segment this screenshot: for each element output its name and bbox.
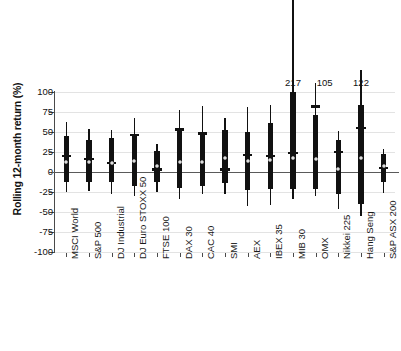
x-axis-tick bbox=[384, 253, 385, 257]
x-axis-label-12: OMX bbox=[320, 237, 330, 259]
mean-marker bbox=[356, 127, 365, 129]
x-axis-label-4: DJ Euro STOXX 50 bbox=[138, 177, 148, 259]
x-axis-label-2: S&P 500 bbox=[93, 222, 103, 259]
x-axis-tick bbox=[112, 253, 113, 257]
y-axis-tick-label: 100 bbox=[19, 87, 53, 97]
x-axis-label-9: AEX bbox=[252, 240, 262, 259]
mean-marker bbox=[288, 152, 297, 154]
x-axis-tick bbox=[66, 253, 67, 257]
x-axis-tick bbox=[225, 253, 226, 257]
x-axis-tick bbox=[248, 253, 249, 257]
mean-marker bbox=[175, 128, 184, 130]
x-axis-label-7: CAC 40 bbox=[206, 226, 216, 259]
x-axis-label-3: DJ Industrial bbox=[116, 206, 126, 259]
x-axis-tick bbox=[270, 253, 271, 257]
overflow-whisker bbox=[360, 70, 361, 92]
x-axis-label-10: IBEX 35 bbox=[274, 224, 284, 259]
x-axis-tick bbox=[180, 253, 181, 257]
median-marker bbox=[155, 164, 159, 168]
y-axis-tick-label: 50 bbox=[19, 127, 53, 137]
y-axis-tick-label: -100 bbox=[19, 247, 53, 257]
x-axis-label-15: S&P ASX 200 bbox=[388, 201, 398, 259]
x-axis-label-13: Nikkei 225 bbox=[342, 215, 352, 259]
mean-marker bbox=[198, 132, 207, 134]
mean-marker bbox=[311, 105, 320, 107]
x-axis-tick bbox=[293, 253, 294, 257]
median-marker bbox=[246, 159, 250, 163]
median-marker bbox=[64, 160, 68, 164]
x-axis-label-6: DAX 30 bbox=[184, 226, 194, 259]
x-axis-label-14: Hang Seng bbox=[365, 211, 375, 259]
y-axis-tick-label: 0 bbox=[19, 167, 53, 177]
mean-marker bbox=[243, 154, 252, 156]
x-axis-tick bbox=[89, 253, 90, 257]
x-axis-label-8: SMI bbox=[229, 242, 239, 259]
value-annotation: 105 bbox=[317, 78, 333, 88]
x-axis-label-1: MSCI World bbox=[70, 208, 80, 259]
y-axis-tick-label: -25 bbox=[19, 187, 53, 197]
mean-marker bbox=[334, 151, 343, 153]
median-marker bbox=[110, 161, 114, 165]
median-marker bbox=[87, 160, 91, 164]
mean-marker bbox=[62, 155, 71, 157]
x-axis-label-11: MIB 30 bbox=[297, 229, 307, 259]
x-axis-tick bbox=[361, 253, 362, 257]
mean-marker bbox=[152, 168, 161, 170]
y-axis-tick-label: -50 bbox=[19, 207, 53, 217]
box bbox=[358, 105, 363, 204]
y-axis-tick-label: 25 bbox=[19, 147, 53, 157]
box bbox=[177, 130, 182, 188]
x-axis-tick bbox=[157, 253, 158, 257]
overflow-whisker bbox=[292, 2, 293, 92]
gridline bbox=[55, 92, 395, 93]
median-marker bbox=[382, 164, 386, 168]
x-axis-tick bbox=[202, 253, 203, 257]
median-marker bbox=[200, 160, 204, 164]
box bbox=[313, 115, 318, 189]
median-marker bbox=[314, 157, 318, 161]
overflow-whisker bbox=[315, 83, 316, 92]
x-axis-tick bbox=[134, 253, 135, 257]
gridline bbox=[55, 212, 395, 213]
y-axis-tick-label: -75 bbox=[19, 227, 53, 237]
x-axis-label-5: FTSE 100 bbox=[161, 216, 171, 259]
median-marker bbox=[178, 160, 182, 164]
mean-marker bbox=[220, 168, 229, 170]
x-axis-tick bbox=[316, 253, 317, 257]
chart-container: Rolling 12-month return (%) 1007550250-2… bbox=[0, 0, 401, 351]
box bbox=[290, 92, 295, 189]
x-axis-tick bbox=[338, 253, 339, 257]
gridline bbox=[55, 112, 395, 113]
y-axis-tick-label: 75 bbox=[19, 107, 53, 117]
mean-marker bbox=[266, 155, 275, 157]
mean-marker bbox=[130, 134, 139, 136]
